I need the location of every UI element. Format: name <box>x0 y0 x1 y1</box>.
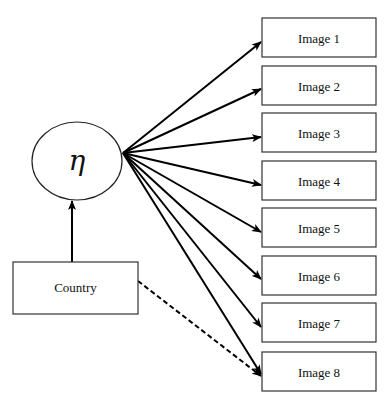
loading-arrow <box>123 153 261 232</box>
indicator-label: Image 3 <box>298 126 340 141</box>
indicator-label: Image 4 <box>298 174 341 189</box>
path-diagram: η Country Image 1Image 2Image 3Image 4Im… <box>0 0 392 404</box>
indicator-label: Image 7 <box>298 316 341 331</box>
country-label: Country <box>54 280 97 295</box>
indicator-node: Image 7 <box>262 303 376 342</box>
indicator-node: Image 4 <box>262 161 376 200</box>
indicator-node: Image 6 <box>262 256 376 295</box>
loading-arrow <box>123 153 261 279</box>
indicator-node: Image 5 <box>262 208 376 247</box>
indicator-label: Image 8 <box>298 365 340 380</box>
indicator-label: Image 2 <box>298 79 340 94</box>
indicator-node: Image 3 <box>262 113 376 152</box>
indicator-nodes: Image 1Image 2Image 3Image 4Image 5Image… <box>262 18 376 391</box>
edges <box>72 42 261 376</box>
indicator-node: Image 1 <box>262 18 376 57</box>
indicator-node: Image 8 <box>262 352 376 391</box>
country-to-image8-dashed-arrow <box>138 281 261 376</box>
eta-symbol: η <box>69 144 86 177</box>
loading-arrow <box>123 137 261 153</box>
indicator-label: Image 1 <box>298 31 340 46</box>
indicator-label: Image 5 <box>298 221 340 236</box>
loading-arrow <box>123 153 261 374</box>
latent-node: η <box>32 122 122 200</box>
country-node: Country <box>13 262 138 314</box>
indicator-label: Image 6 <box>298 269 341 284</box>
indicator-node: Image 2 <box>262 66 376 105</box>
loading-arrow <box>123 153 261 327</box>
